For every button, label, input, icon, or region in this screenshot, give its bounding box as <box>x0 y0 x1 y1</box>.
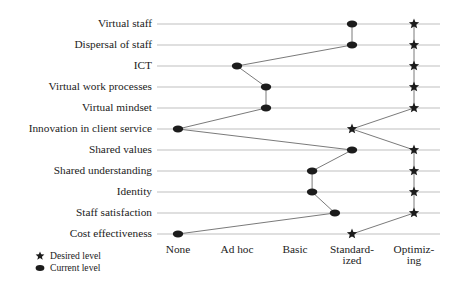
dot-plot-chart: Virtual staffDispersal of staffICTVirtua… <box>0 0 460 284</box>
marker-dot-icon <box>347 147 357 154</box>
category-label: Shared values <box>89 143 152 155</box>
x-tick-label: Ad hoc <box>221 243 254 255</box>
category-label: Virtual mindset <box>82 101 153 113</box>
marker-dot-icon <box>232 63 242 70</box>
x-tick-label: Basic <box>282 243 307 255</box>
marker-dot-icon <box>173 126 183 133</box>
legend-label: Current level <box>50 262 101 273</box>
category-label: ICT <box>134 59 152 71</box>
legend-dot-icon <box>36 265 45 271</box>
x-axis-tick-labels: NoneAd hocBasicStandard-izedOptimiz-ing <box>166 243 435 266</box>
category-label: Shared understanding <box>54 164 153 176</box>
chart-canvas: Virtual staffDispersal of staffICTVirtua… <box>0 0 460 284</box>
marker-dot-icon <box>261 84 271 91</box>
marker-star-icon <box>347 124 357 134</box>
gridlines-group <box>157 24 440 234</box>
x-tick-label: None <box>166 243 190 255</box>
marker-dot-icon <box>261 105 271 112</box>
marker-dot-icon <box>347 42 357 49</box>
marker-dot-icon <box>307 168 317 175</box>
category-label: Staff satisfaction <box>76 206 152 218</box>
x-tick-label: ized <box>343 254 362 266</box>
legend-star-icon <box>36 251 45 259</box>
marker-dot-icon <box>173 231 183 238</box>
category-label: Innovation in client service <box>29 122 152 134</box>
category-label: Virtual staff <box>98 17 152 29</box>
category-label: Virtual work processes <box>49 80 152 92</box>
category-label: Cost effectiveness <box>70 227 152 239</box>
marker-dot-icon <box>347 21 357 28</box>
legend-label: Desired level <box>50 250 101 261</box>
marker-dot-icon <box>307 189 317 196</box>
chart-legend: Desired levelCurrent level <box>36 250 102 273</box>
marker-star-icon <box>409 208 419 218</box>
marker-dot-icon <box>330 210 340 217</box>
category-label: Dispersal of staff <box>74 38 152 50</box>
marker-star-icon <box>409 103 419 113</box>
x-tick-label: ing <box>407 254 422 266</box>
category-axis-labels: Virtual staffDispersal of staffICTVirtua… <box>29 17 153 239</box>
series-markers-group <box>173 19 419 239</box>
category-label: Identity <box>117 185 152 197</box>
marker-star-icon <box>347 229 357 239</box>
